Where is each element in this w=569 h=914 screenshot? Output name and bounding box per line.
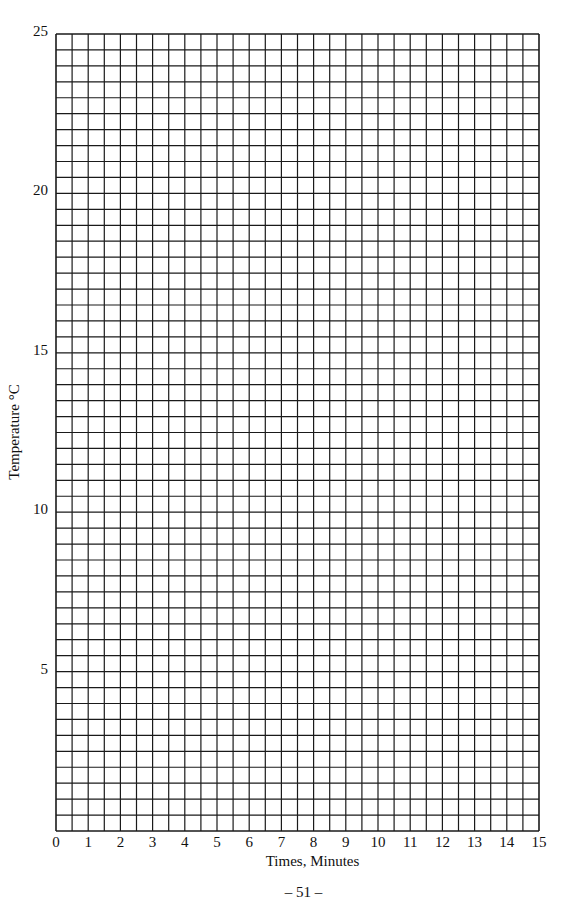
x-tick-label: 15 bbox=[524, 834, 554, 851]
graph-grid bbox=[0, 0, 569, 914]
x-tick-label: 2 bbox=[105, 834, 135, 851]
x-tick-label: 3 bbox=[138, 834, 168, 851]
x-tick-label: 4 bbox=[170, 834, 200, 851]
x-tick-label: 12 bbox=[427, 834, 457, 851]
x-tick-label: 11 bbox=[395, 834, 425, 851]
x-tick-label: 5 bbox=[202, 834, 232, 851]
x-tick-label: 7 bbox=[266, 834, 296, 851]
y-tick-label: 15 bbox=[18, 342, 48, 359]
x-tick-label: 8 bbox=[299, 834, 329, 851]
x-tick-label: 6 bbox=[234, 834, 264, 851]
y-tick-label: 5 bbox=[18, 661, 48, 678]
x-tick-label: 1 bbox=[73, 834, 103, 851]
x-tick-label: 0 bbox=[41, 834, 71, 851]
x-tick-label: 10 bbox=[363, 834, 393, 851]
y-axis-label: Temperature °C bbox=[6, 384, 23, 479]
x-tick-label: 9 bbox=[331, 834, 361, 851]
x-tick-label: 13 bbox=[460, 834, 490, 851]
x-axis-label-text: Times, Minutes bbox=[71, 853, 554, 870]
x-axis-label: Times, Minutes bbox=[0, 853, 569, 870]
y-tick-label: 25 bbox=[18, 23, 48, 40]
y-tick-label: 20 bbox=[18, 182, 48, 199]
y-tick-label: 10 bbox=[18, 501, 48, 518]
page-number: – 51 – bbox=[0, 884, 569, 901]
x-tick-label: 14 bbox=[492, 834, 522, 851]
